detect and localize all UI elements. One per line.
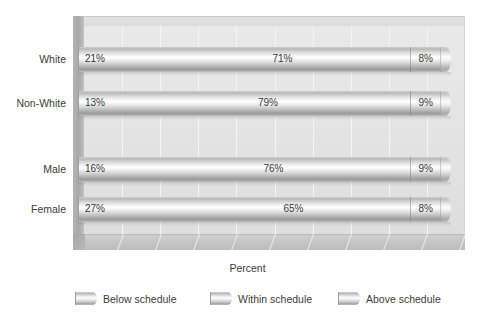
stacked-bar[interactable]: 21%71%8%: [78, 47, 451, 72]
segment-value-below: 13%: [85, 97, 105, 109]
floor-tick: [421, 234, 428, 250]
legend-item-2[interactable]: Within schedule: [210, 292, 312, 305]
floor-tick: [459, 234, 466, 250]
stacked-bar[interactable]: 16%76%9%: [78, 157, 451, 182]
legend-swatch-icon: [210, 292, 232, 305]
legend-label: Within schedule: [238, 293, 312, 305]
legend-label: Above schedule: [366, 293, 441, 305]
segment-value-within: 71%: [154, 53, 411, 65]
bar-segment-within[interactable]: 76%: [136, 157, 411, 182]
bar-segment-above[interactable]: 9%: [411, 91, 440, 116]
bar-segment-below[interactable]: 27%: [78, 197, 177, 222]
legend-swatch-icon: [338, 292, 360, 305]
bar-segment-within[interactable]: 79%: [125, 91, 411, 116]
stacked-bar[interactable]: 13%79%9%: [78, 91, 451, 116]
chart-container: White21%71%8%Non-White13%79%9%Male16%76%…: [0, 0, 495, 327]
legend-item-3[interactable]: Above schedule: [338, 292, 441, 305]
bar-rows: White21%71%8%Non-White13%79%9%Male16%76%…: [0, 0, 495, 327]
floor-tick: [193, 234, 200, 250]
segment-value-above: 8%: [419, 203, 433, 215]
bar-segment-above[interactable]: 8%: [411, 197, 440, 222]
bar-end-cap: [440, 197, 451, 222]
category-label: Non-White: [0, 98, 66, 109]
segment-value-above: 9%: [419, 97, 433, 109]
floor-tick: [307, 234, 314, 250]
floor-tick: [383, 234, 390, 250]
bar-segment-above[interactable]: 9%: [411, 157, 440, 182]
legend-item-1[interactable]: Below schedule: [75, 292, 177, 305]
plot-floor: [73, 234, 465, 250]
legend-swatch-icon: [75, 292, 97, 305]
stacked-bar[interactable]: 27%65%8%: [78, 197, 451, 222]
bar-segment-below[interactable]: 16%: [78, 157, 137, 182]
category-label: White: [0, 54, 66, 65]
x-axis-title: Percent: [0, 262, 495, 274]
segment-value-below: 21%: [85, 53, 105, 65]
segment-value-above: 9%: [419, 163, 433, 175]
bar-end-cap: [440, 91, 451, 116]
segment-value-within: 76%: [136, 163, 411, 175]
segment-value-within: 79%: [125, 97, 411, 109]
bar-shadow: [78, 222, 451, 226]
bar-row[interactable]: Non-White13%79%9%: [0, 91, 495, 116]
segment-value-below: 16%: [85, 163, 105, 175]
bar-segment-below[interactable]: 13%: [78, 91, 126, 116]
category-label: Male: [0, 164, 66, 175]
segment-value-below: 27%: [85, 203, 105, 215]
bar-end-cap: [440, 157, 451, 182]
plot-top-ledge: [73, 16, 465, 26]
segment-value-above: 8%: [419, 53, 433, 65]
bar-shadow: [78, 182, 451, 186]
legend-label: Below schedule: [103, 293, 177, 305]
plot-corner-wedge: [73, 234, 85, 250]
bar-shadow: [78, 116, 451, 120]
category-label: Female: [0, 204, 66, 215]
bar-end-cap: [440, 47, 451, 72]
bar-row[interactable]: White21%71%8%: [0, 47, 495, 72]
floor-tick: [345, 234, 352, 250]
segment-value-within: 65%: [176, 203, 411, 215]
bar-segment-within[interactable]: 65%: [176, 197, 411, 222]
floor-tick: [155, 234, 162, 250]
bar-segment-above[interactable]: 8%: [411, 47, 440, 72]
chart-legend: Below scheduleWithin scheduleAbove sched…: [0, 292, 495, 314]
bar-row[interactable]: Female27%65%8%: [0, 197, 495, 222]
bar-segment-below[interactable]: 21%: [78, 47, 155, 72]
floor-tick: [117, 234, 124, 250]
floor-tick: [231, 234, 238, 250]
floor-tick: [269, 234, 276, 250]
bar-shadow: [78, 72, 451, 76]
bar-row[interactable]: Male16%76%9%: [0, 157, 495, 182]
bar-segment-within[interactable]: 71%: [154, 47, 411, 72]
